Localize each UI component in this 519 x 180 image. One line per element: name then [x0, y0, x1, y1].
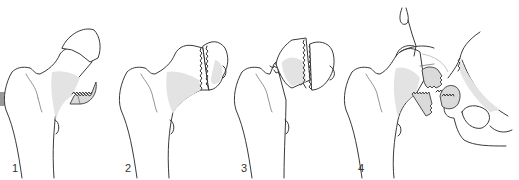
panel-label-4: 4 [358, 163, 364, 174]
fracture-panel-4: 4 [340, 0, 519, 180]
femur-illustration-1 [0, 0, 120, 180]
fracture-panel-2: 2 [115, 0, 240, 180]
femur-illustration-3 [230, 0, 355, 180]
fracture-panel-1: 1 [0, 0, 120, 180]
fracture-panel-3: 3 [230, 0, 355, 180]
panel-label-1: 1 [12, 163, 18, 174]
panel-label-2: 2 [125, 163, 131, 174]
femur-illustration-2 [115, 0, 240, 180]
hip-joint-illustration-4 [340, 0, 519, 180]
panel-label-3: 3 [241, 163, 247, 174]
